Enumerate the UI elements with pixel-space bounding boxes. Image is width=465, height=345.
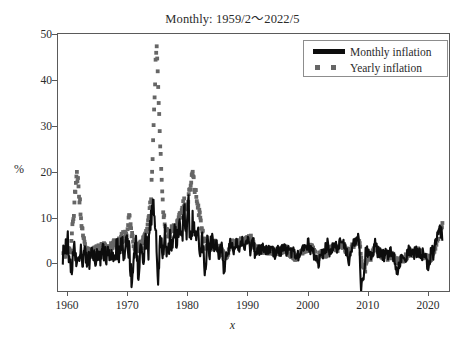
y-tick-label: 40	[12, 74, 52, 86]
yearly-inflation-marker	[249, 234, 253, 238]
yearly-inflation-marker	[157, 112, 161, 116]
chart-legend: Monthly inflation Yearly inflation	[303, 40, 448, 77]
legend-dotted-squares-icon	[308, 65, 350, 71]
chart-figure: Monthly: 1959/2～2022/5 % x 01020304050 1…	[0, 0, 465, 345]
yearly-inflation-marker	[150, 178, 154, 182]
yearly-inflation-marker	[76, 179, 80, 183]
yearly-inflation-marker	[153, 96, 157, 100]
yearly-inflation-marker	[74, 190, 78, 194]
yearly-inflation-marker	[152, 123, 156, 127]
x-tick-label: 2010	[338, 299, 398, 311]
yearly-inflation-marker	[159, 152, 163, 156]
yearly-inflation-marker	[77, 185, 81, 189]
y-tick-label-group: 01020304050	[8, 0, 52, 345]
yearly-inflation-marker	[194, 195, 198, 199]
yearly-inflation-marker	[161, 198, 165, 202]
yearly-inflation-marker	[129, 222, 133, 226]
x-axis-label: x	[0, 318, 465, 333]
x-tick-label: 1970	[97, 299, 157, 311]
yearly-inflation-marker	[70, 239, 74, 243]
yearly-inflation-marker	[160, 178, 164, 182]
yearly-inflation-marker	[156, 69, 160, 73]
yearly-inflation-marker	[160, 190, 164, 194]
legend-solid-line-icon	[308, 49, 350, 54]
legend-label-monthly: Monthly inflation	[350, 46, 431, 58]
y-tick-label: 50	[12, 28, 52, 40]
yearly-inflation-marker	[79, 216, 83, 220]
yearly-inflation-marker	[159, 167, 163, 171]
yearly-inflation-marker	[129, 226, 133, 230]
legend-item-monthly-inflation: Monthly inflation	[304, 43, 449, 60]
y-tick-label: 20	[12, 166, 52, 178]
yearly-inflation-marker	[199, 219, 203, 223]
yearly-inflation-marker	[156, 85, 160, 89]
yearly-inflation-marker	[158, 145, 162, 149]
yearly-inflation-marker	[191, 170, 195, 174]
legend-label-yearly: Yearly inflation	[350, 62, 422, 74]
yearly-inflation-marker	[145, 227, 149, 231]
yearly-inflation-marker	[157, 101, 161, 105]
yearly-inflation-marker	[188, 188, 192, 192]
yearly-inflation-marker	[194, 188, 198, 192]
y-tick-label: 30	[12, 120, 52, 132]
yearly-inflation-marker	[73, 201, 77, 205]
yearly-inflation-marker	[162, 214, 166, 218]
yearly-inflation-marker	[76, 176, 80, 180]
x-tick-label: 1980	[157, 299, 217, 311]
yearly-inflation-marker	[78, 197, 82, 201]
yearly-inflation-marker	[131, 234, 135, 238]
yearly-inflation-marker	[441, 221, 445, 225]
x-tick-label: 2020	[398, 299, 458, 311]
yearly-inflation-marker	[155, 44, 159, 48]
x-tick-label: 2000	[278, 299, 338, 311]
yearly-inflation-marker	[81, 227, 85, 231]
yearly-inflation-marker	[154, 51, 158, 55]
yearly-inflation-marker	[75, 170, 79, 174]
legend-item-yearly-inflation: Yearly inflation	[304, 59, 449, 76]
yearly-inflation-marker	[82, 236, 86, 240]
yearly-inflation-marker	[189, 181, 193, 185]
yearly-inflation-marker	[182, 197, 186, 201]
yearly-inflation-marker	[192, 175, 196, 179]
yearly-inflation-marker	[152, 108, 156, 112]
yearly-inflation-marker	[151, 138, 155, 142]
chart-title: Monthly: 1959/2～2022/5	[0, 8, 465, 27]
yearly-inflation-marker	[196, 204, 200, 208]
x-tick-label: 1990	[217, 299, 277, 311]
y-tick-label: 10	[12, 212, 52, 224]
yearly-inflation-marker	[128, 214, 132, 218]
yearly-inflation-marker	[79, 213, 83, 217]
yearly-inflation-marker	[198, 211, 202, 215]
yearly-inflation-marker	[150, 170, 154, 174]
yearly-inflation-marker	[158, 129, 162, 133]
yearly-inflation-marker	[155, 57, 159, 61]
yearly-inflation-marker	[151, 157, 155, 161]
y-tick-label: 0	[12, 257, 52, 269]
yearly-inflation-marker	[70, 232, 74, 236]
yearly-inflation-marker	[72, 214, 76, 218]
